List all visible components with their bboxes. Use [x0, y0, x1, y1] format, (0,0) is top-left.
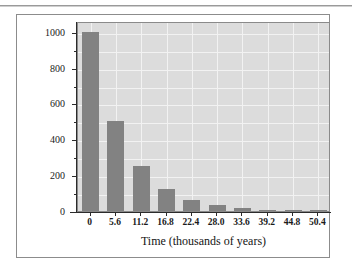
bar — [158, 189, 175, 211]
x-tick-label: 5.6 — [109, 218, 121, 228]
y-tick-minor — [74, 122, 77, 123]
bar — [133, 166, 150, 211]
y-tick-minor — [74, 194, 77, 195]
x-tick — [115, 212, 116, 216]
bar — [234, 208, 251, 211]
x-tick — [317, 212, 318, 216]
x-tick-label: 16.8 — [157, 218, 174, 228]
top-horizontal-rule — [0, 5, 352, 7]
y-tick-label: 200 — [50, 171, 65, 181]
bar-series — [78, 23, 329, 211]
y-tick-label: 600 — [50, 99, 65, 109]
figure-container: 02004006008001000 05.611.216.822.428.033… — [0, 0, 352, 272]
plot-area — [77, 22, 330, 212]
x-tick — [267, 212, 268, 216]
x-tick-label: 11.2 — [132, 218, 148, 228]
y-tick-minor — [74, 158, 77, 159]
y-tick-label: 800 — [50, 64, 65, 74]
y-tick-minor — [74, 87, 77, 88]
x-tick-label: 50.4 — [309, 218, 326, 228]
bar — [285, 210, 302, 211]
y-tick-major — [72, 69, 77, 70]
y-tick-major — [72, 140, 77, 141]
x-tick-label: 28.0 — [208, 218, 225, 228]
x-tick — [241, 212, 242, 216]
x-tick — [90, 212, 91, 216]
y-tick-major — [72, 176, 77, 177]
bar — [183, 200, 200, 211]
bar — [310, 210, 327, 211]
x-tick-label: 39.2 — [258, 218, 275, 228]
y-axis-ticks — [66, 22, 77, 212]
x-tick — [292, 212, 293, 216]
x-tick-label: 0 — [87, 218, 92, 228]
x-tick — [140, 212, 141, 216]
x-tick-label: 44.8 — [284, 218, 301, 228]
bar — [209, 205, 226, 211]
x-tick-label: 33.6 — [233, 218, 250, 228]
y-axis-tick-labels: 02004006008001000 — [20, 22, 65, 212]
x-tick-label: 22.4 — [183, 218, 200, 228]
x-axis-title: Time (thousands of years) — [77, 234, 330, 249]
x-tick — [191, 212, 192, 216]
x-axis-tick-labels: 05.611.216.822.428.033.639.244.850.4 — [77, 218, 330, 232]
y-tick-major — [72, 33, 77, 34]
y-tick-label: 1000 — [45, 28, 65, 38]
y-tick-minor — [74, 51, 77, 52]
bar — [82, 32, 99, 211]
y-tick-label: 400 — [50, 135, 65, 145]
y-tick-label: 0 — [60, 207, 65, 217]
x-tick — [166, 212, 167, 216]
bar — [107, 121, 124, 211]
x-tick — [216, 212, 217, 216]
bar — [259, 210, 276, 211]
y-tick-major — [72, 104, 77, 105]
